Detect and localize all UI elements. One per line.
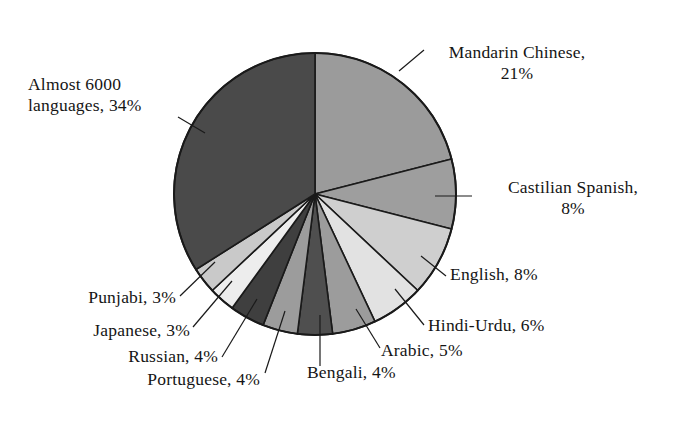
slice-label-portuguese: Portuguese, 4% <box>60 369 260 390</box>
slice-label-hindi: Hindi-Urdu, 6% <box>428 315 658 336</box>
pie-chart-figure: Mandarin Chinese, 21% Castilian Spanish,… <box>0 0 676 435</box>
slice-label-japanese: Japanese, 3% <box>20 320 190 341</box>
slice-label-mandarin: Mandarin Chinese, 21% <box>411 42 623 85</box>
slice-label-almost: Almost 6000 languages, 34% <box>28 74 228 117</box>
slice-label-arabic: Arabic, 5% <box>381 340 561 361</box>
slice-label-russian: Russian, 4% <box>40 346 218 367</box>
slice-label-bengali: Bengali, 4% <box>307 362 487 383</box>
slice-label-punjabi: Punjabi, 3% <box>10 287 176 308</box>
slice-label-castilian: Castilian Spanish, 8% <box>471 177 675 220</box>
slice-label-english: English, 8% <box>450 264 670 285</box>
